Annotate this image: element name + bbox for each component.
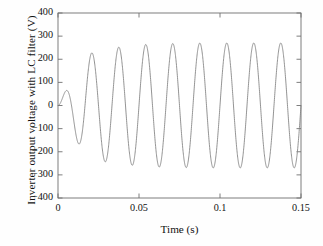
y-tick-label: 400: [17, 6, 53, 17]
x-axis-label: Time (s): [58, 223, 301, 235]
y-tick-label: −400: [17, 191, 53, 202]
chart-figure: Inverter output voltage with LC filter (…: [0, 0, 323, 246]
y-tick-label: 0: [17, 99, 53, 110]
y-tick-label: 200: [17, 52, 53, 63]
y-tick-label: −100: [17, 122, 53, 133]
y-tick-label: −300: [17, 168, 53, 179]
x-tick-label: 0: [38, 202, 78, 213]
x-tick-label: 0.15: [281, 202, 321, 213]
y-tick-label: 300: [17, 29, 53, 40]
y-tick-label: −200: [17, 145, 53, 156]
x-tick-label: 0.05: [119, 202, 159, 213]
x-tick-label: 0.1: [200, 202, 240, 213]
y-tick-label: 100: [17, 75, 53, 86]
